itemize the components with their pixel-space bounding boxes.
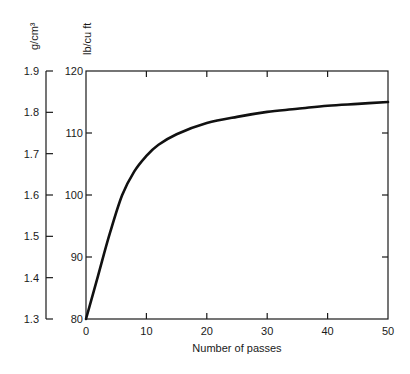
secondary-y-tick-label: 1.9 <box>24 65 39 77</box>
density-vs-passes-chart: 0102030405080901001101201.31.41.51.61.71… <box>0 0 410 374</box>
y-tick-label: 110 <box>65 127 83 139</box>
secondary-y-tick-label: 1.4 <box>24 272 39 284</box>
y-tick-label: 100 <box>65 189 83 201</box>
secondary-y-tick-label: 1.7 <box>24 148 39 160</box>
y-tick-label: 80 <box>71 313 83 325</box>
secondary-y-tick-label: 1.3 <box>24 313 39 325</box>
y-axis-title: lb/cu ft <box>81 23 93 55</box>
secondary-y-tick-label: 1.5 <box>24 230 39 242</box>
x-tick-label: 50 <box>382 325 394 337</box>
secondary-y-axis-title: g/cm³ <box>28 22 40 50</box>
x-axis-title: Number of passes <box>192 342 282 354</box>
y-tick-label: 120 <box>65 65 83 77</box>
secondary-y-tick-label: 1.6 <box>24 189 39 201</box>
density-curve <box>86 102 388 319</box>
x-tick-label: 40 <box>321 325 333 337</box>
x-tick-label: 30 <box>261 325 273 337</box>
plot-frame <box>86 71 388 319</box>
x-tick-label: 10 <box>140 325 152 337</box>
x-tick-label: 20 <box>201 325 213 337</box>
y-tick-label: 90 <box>71 251 83 263</box>
secondary-y-tick-label: 1.8 <box>24 106 39 118</box>
x-tick-label: 0 <box>83 325 89 337</box>
